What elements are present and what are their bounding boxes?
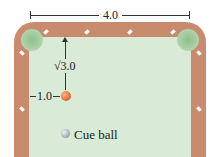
arrow-up-icon	[62, 37, 68, 42]
pocket-top-right	[177, 29, 199, 51]
target-ball	[61, 91, 71, 101]
height-label: √3.0	[54, 59, 76, 73]
width-label: 4.0	[99, 9, 122, 21]
width-dimension-tick-left	[30, 11, 31, 19]
offset-label: 1.0	[36, 90, 53, 102]
pocket-top-left	[21, 29, 43, 51]
cue-ball	[61, 129, 70, 138]
width-dimension-tick-right	[189, 11, 190, 19]
cue-ball-label: Cue ball	[74, 128, 118, 141]
